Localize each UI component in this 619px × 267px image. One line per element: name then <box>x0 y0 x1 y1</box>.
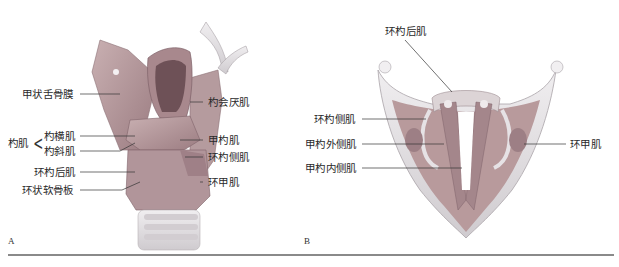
label-transverse-arytenoid: 杓横肌 <box>44 130 75 142</box>
label-thyroarytenoid: 甲杓肌 <box>208 134 239 146</box>
label-arytenoid-muscle-group: 杓肌 <box>8 137 29 149</box>
larynx-illustration <box>0 0 619 267</box>
trachea <box>138 210 200 250</box>
label-internal-thyroarytenoid: 甲杓内侧肌 <box>305 162 357 174</box>
brace-icon: < <box>33 133 43 153</box>
label-cricothyroid-a: 环甲肌 <box>208 176 239 188</box>
panel-letter-a: A <box>8 236 15 246</box>
label-oblique-arytenoid: 杓斜肌 <box>44 145 75 157</box>
label-posterior-cricoarytenoid-a: 环杓后肌 <box>34 166 75 178</box>
label-cricothyroid-b: 环甲肌 <box>570 138 601 150</box>
label-thyrohyoid-membrane: 甲状舌骨膜 <box>22 88 74 100</box>
label-posterior-cricoarytenoid-b: 环杓后肌 <box>385 25 426 37</box>
label-lateral-cricoarytenoid-b: 环杓侧肌 <box>314 113 355 125</box>
panel-b-larynx <box>378 61 563 238</box>
label-aryepiglottic-muscle: 杓会厌肌 <box>208 96 249 108</box>
panel-letter-b: B <box>304 236 310 246</box>
label-lateral-cricoarytenoid-a: 环杓侧肌 <box>208 151 249 163</box>
label-external-thyroarytenoid: 甲杓外侧肌 <box>305 138 357 150</box>
bottom-rule <box>8 254 614 256</box>
label-cricoid-lamina: 环状软骨板 <box>22 184 74 196</box>
